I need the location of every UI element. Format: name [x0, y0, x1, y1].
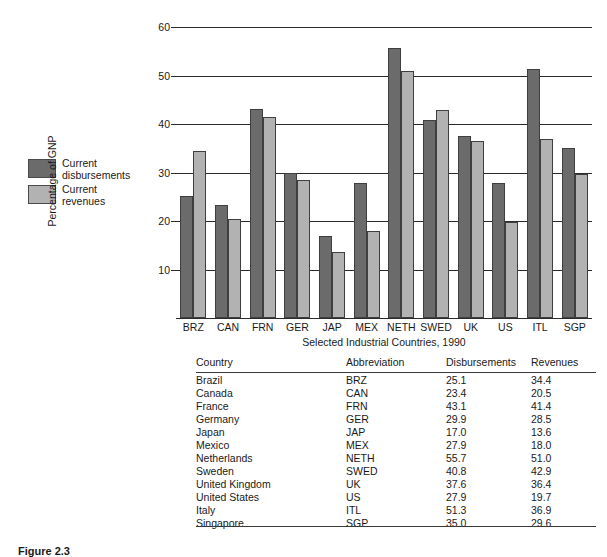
table-cell-country: Singapore	[196, 516, 346, 532]
table-row: SwedenSWED40.842.9	[196, 464, 596, 477]
bar-can-disbursements	[215, 205, 228, 318]
x-tick-label-sgp: SGP	[557, 321, 592, 333]
bar-group-swed	[419, 27, 454, 318]
table-cell-disbursements: 40.8	[446, 464, 531, 477]
table-cell-country: Brazil	[196, 373, 346, 387]
x-tick-label-us: US	[488, 321, 523, 333]
y-tick-label-30: 30	[148, 167, 170, 179]
y-tick-label-10: 10	[148, 264, 170, 276]
bar-group-neth	[384, 27, 419, 318]
bar-uk-revenues	[471, 141, 484, 318]
table-cell-abbr: ITL	[346, 503, 446, 516]
bar-groups	[176, 27, 592, 318]
table-header-revenues: Revenues	[531, 356, 596, 373]
figure-panel: Current disbursements Current revenues P…	[0, 0, 607, 354]
table-cell-abbr: NETH	[346, 451, 446, 464]
y-tick-mark-10	[171, 270, 176, 271]
x-tick-label-ger: GER	[280, 321, 315, 333]
table-cell-abbr: CAN	[346, 386, 446, 399]
table-cell-revenues: 18.0	[531, 438, 596, 451]
bar-jap-revenues	[332, 252, 345, 318]
table-cell-revenues: 19.7	[531, 490, 596, 503]
bar-ger-revenues	[297, 180, 310, 318]
table-row: GermanyGER29.928.5	[196, 412, 596, 425]
bar-frn-revenues	[263, 117, 276, 318]
y-tick-label-20: 20	[148, 215, 170, 227]
bar-group-frn	[245, 27, 280, 318]
table-row: United KingdomUK37.636.4	[196, 477, 596, 490]
data-table: Country Abbreviation Disbursements Reven…	[196, 356, 596, 532]
table-cell-abbr: SWED	[346, 464, 446, 477]
bar-mex-disbursements	[354, 183, 367, 318]
bar-brz-disbursements	[180, 196, 193, 318]
table-cell-revenues: 28.5	[531, 412, 596, 425]
table-row: BrazilBRZ25.134.4	[196, 373, 596, 387]
table-body: BrazilBRZ25.134.4CanadaCAN23.420.5France…	[196, 373, 596, 532]
table-cell-disbursements: 37.6	[446, 477, 531, 490]
table-header-disbursements: Disbursements	[446, 356, 531, 373]
x-axis-tick-labels: BRZCANFRNGERJAPMEXNETHSWEDUKUSITLSGP	[176, 321, 592, 333]
table-cell-revenues: 42.9	[531, 464, 596, 477]
table-header-country: Country	[196, 356, 346, 373]
bar-itl-disbursements	[527, 69, 540, 318]
table-cell-country: Italy	[196, 503, 346, 516]
x-tick-label-itl: ITL	[523, 321, 558, 333]
table-cell-disbursements: 55.7	[446, 451, 531, 464]
y-tick-mark-20	[171, 221, 176, 222]
bar-us-revenues	[505, 222, 518, 318]
table-cell-country: United States	[196, 490, 346, 503]
table-row: CanadaCAN23.420.5	[196, 386, 596, 399]
plot-area	[176, 27, 592, 318]
table-row: SingaporeSGP35.029.6	[196, 516, 596, 532]
table-header-abbreviation: Abbreviation	[346, 356, 446, 373]
table-cell-abbr: BRZ	[346, 373, 446, 387]
table-header-row: Country Abbreviation Disbursements Reven…	[196, 356, 596, 373]
table-cell-country: Netherlands	[196, 451, 346, 464]
table-cell-country: Germany	[196, 412, 346, 425]
table-cell-country: Japan	[196, 425, 346, 438]
bar-group-us	[488, 27, 523, 318]
bar-swed-revenues	[436, 110, 449, 318]
bar-uk-disbursements	[458, 136, 471, 318]
bar-us-disbursements	[492, 183, 505, 318]
bar-group-uk	[453, 27, 488, 318]
x-tick-label-frn: FRN	[245, 321, 280, 333]
y-tick-label-60: 60	[148, 21, 170, 33]
table-row: NetherlandsNETH55.751.0	[196, 451, 596, 464]
table-cell-abbr: UK	[346, 477, 446, 490]
bar-group-mex	[349, 27, 384, 318]
bar-mex-revenues	[367, 231, 380, 318]
y-tick-mark-40	[171, 124, 176, 125]
bar-jap-disbursements	[319, 236, 332, 318]
y-axis-tick-labels: 102030405060	[146, 27, 170, 318]
bar-group-ger	[280, 27, 315, 318]
table-row: ItalyITL51.336.9	[196, 503, 596, 516]
table-cell-disbursements: 23.4	[446, 386, 531, 399]
table-cell-abbr: JAP	[346, 425, 446, 438]
table-cell-disbursements: 25.1	[446, 373, 531, 387]
x-tick-label-neth: NETH	[384, 321, 419, 333]
table-cell-disbursements: 35.0	[446, 516, 531, 532]
table-cell-country: Mexico	[196, 438, 346, 451]
y-tick-label-50: 50	[148, 70, 170, 82]
table-cell-revenues: 20.5	[531, 386, 596, 399]
bar-group-sgp	[557, 27, 592, 318]
table-row: JapanJAP17.013.6	[196, 425, 596, 438]
table-cell-country: Canada	[196, 386, 346, 399]
table-cell-disbursements: 27.9	[446, 438, 531, 451]
bar-neth-disbursements	[388, 48, 401, 318]
x-tick-label-jap: JAP	[315, 321, 350, 333]
table-cell-abbr: GER	[346, 412, 446, 425]
table-cell-abbr: FRN	[346, 399, 446, 412]
x-tick-label-mex: MEX	[349, 321, 384, 333]
table-cell-disbursements: 29.9	[446, 412, 531, 425]
figure-caption: Figure 2.3	[18, 545, 70, 557]
bar-group-itl	[523, 27, 558, 318]
bar-swed-disbursements	[423, 120, 436, 318]
table-cell-disbursements: 27.9	[446, 490, 531, 503]
x-tick-label-uk: UK	[453, 321, 488, 333]
bar-ger-disbursements	[284, 173, 297, 318]
table-cell-abbr: US	[346, 490, 446, 503]
table-cell-revenues: 51.0	[531, 451, 596, 464]
table-cell-revenues: 36.9	[531, 503, 596, 516]
